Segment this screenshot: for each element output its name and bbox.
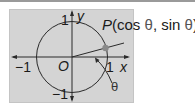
- origin-label: O: [58, 59, 69, 73]
- terminal-ray: [72, 43, 124, 57]
- tick-neg-x: −1: [15, 60, 31, 74]
- tick-pos-y: 1: [61, 13, 69, 27]
- point-y-theta: θ: [185, 16, 193, 33]
- point-p-label: P(cos θ, sin θ): [102, 17, 195, 32]
- y-axis-label: y: [77, 9, 84, 23]
- point-y-expr: sin: [161, 16, 180, 33]
- point-close-paren: ): [193, 16, 195, 33]
- tick-pos-x: 1: [106, 60, 114, 74]
- x-axis-label: x: [120, 60, 127, 74]
- point-p: [102, 45, 108, 51]
- tick-neg-y: −1: [52, 87, 68, 101]
- y-axis-down-arrow-icon: [70, 96, 74, 102]
- angle-label: θ: [111, 80, 118, 93]
- point-separator: ,: [153, 16, 161, 33]
- point-name: P: [102, 16, 112, 33]
- point-x-expr: cos: [117, 16, 140, 33]
- y-axis-up-arrow-icon: [70, 10, 74, 16]
- point-x-theta: θ: [145, 16, 153, 33]
